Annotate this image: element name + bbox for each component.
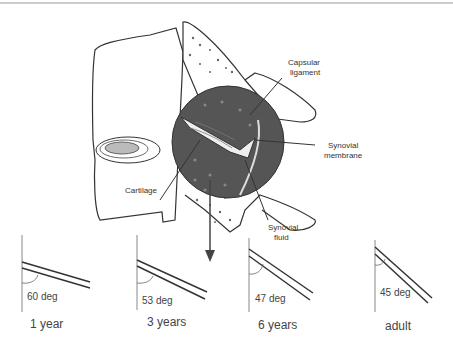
angle-3-years: 53 deg 3 years [137, 235, 207, 329]
label-synovial-membrane-2: membrane [324, 151, 363, 160]
label-synovial-fluid-1: Synovial [268, 223, 298, 232]
angle-value: 53 deg [142, 295, 173, 306]
label-cartilage: Cartilage [125, 186, 158, 195]
age-label: 6 years [258, 318, 297, 332]
angle-value: 45 deg [380, 287, 411, 298]
arrow-down-icon [205, 250, 215, 262]
label-capsular-ligament-1: Capsular [288, 58, 320, 67]
label-synovial-fluid-2: fluid [274, 233, 289, 242]
age-label: adult [385, 319, 412, 333]
label-synovial-membrane-1: Synovial [328, 141, 358, 150]
angle-6-years: 47 deg 6 years [249, 238, 313, 332]
age-label: 1 year [30, 317, 63, 331]
angle-value: 60 deg [27, 291, 58, 302]
nucleus [105, 142, 139, 154]
joint-magnifier [172, 86, 284, 198]
angle-value: 47 deg [255, 293, 286, 304]
angle-1-year: 60 deg 1 year [22, 235, 90, 331]
label-capsular-ligament-2: ligament [290, 68, 321, 77]
facet-joint-diagram: Capsular ligament Synovial membrane Cart… [0, 0, 453, 348]
age-label: 3 years [147, 315, 186, 329]
angle-adult: 45 deg adult [375, 240, 432, 333]
